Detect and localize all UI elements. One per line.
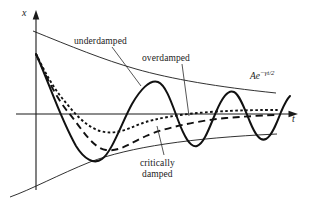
x-axis-group: [33, 10, 40, 190]
x-axis-label: x: [22, 7, 26, 18]
x-axis-arrowhead: [33, 10, 40, 20]
t-axis-label: t: [292, 113, 295, 124]
envelope-equation-base: Ae: [250, 71, 260, 81]
overdamped-label: overdamped: [142, 53, 190, 64]
critically-damped-label: critically damped: [140, 158, 175, 179]
critically-damped-leader-line: [157, 126, 164, 155]
damped-oscillator-figure: underdamped overdamped critically damped…: [0, 0, 315, 205]
envelope-equation-label: Ae−γt/2: [250, 69, 274, 81]
underdamped-leader-line: [112, 47, 141, 86]
envelope-equation-exponent: −γt/2: [260, 69, 274, 76]
overdamped-curve: [36, 54, 278, 132]
overdamped-leader-line: [182, 64, 189, 116]
critically-damped-label-line2: damped: [140, 169, 175, 180]
critically-damped-label-line1: critically: [140, 158, 175, 169]
underdamped-label: underdamped: [74, 36, 127, 47]
